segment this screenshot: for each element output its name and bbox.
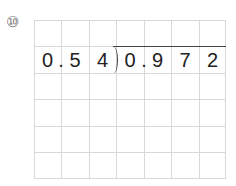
division-row: 0 . 5 4 0 . 9 7 2 — [34, 47, 226, 73]
problem-number: ⑩ — [6, 14, 19, 29]
dividend-digit: 9 — [144, 47, 171, 73]
divisor-digit: 5 — [61, 47, 89, 73]
dividend-digit: 7 — [171, 47, 199, 73]
dividend-digit: 2 — [199, 47, 226, 73]
divisor-digit: 4 — [89, 47, 116, 73]
answer-grid — [34, 20, 226, 179]
